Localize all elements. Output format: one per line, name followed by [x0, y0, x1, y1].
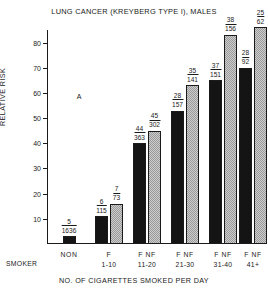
- fraction-denominator: 151: [210, 69, 221, 78]
- fraction-numerator: 7: [113, 185, 120, 193]
- x-axis-title: NO. OF CIGARETTES SMOKED PER DAY: [0, 276, 268, 285]
- bar-fraction-label: 6115: [96, 198, 107, 215]
- bar-fraction-label: 2562: [257, 9, 264, 26]
- y-tick-label: 60: [33, 89, 41, 96]
- bar-f: [171, 111, 184, 244]
- y-tick-label: 70: [33, 64, 41, 71]
- category-series-label: F NF: [138, 250, 156, 260]
- y-tick-label: 10: [33, 215, 41, 222]
- category-series-label: F NF: [176, 250, 195, 260]
- category-series-label: F NF: [244, 250, 262, 260]
- y-tick-mark: [43, 118, 48, 119]
- category-series-label: F NF: [214, 250, 233, 260]
- fraction-denominator: 302: [149, 120, 160, 129]
- bar-fraction-label: 773: [113, 185, 120, 202]
- y-tick-mark: [43, 143, 48, 144]
- fraction-numerator: 28: [172, 92, 183, 100]
- bar-fraction-label: 37151: [210, 62, 221, 79]
- bar-nf: [148, 131, 161, 244]
- x-category-label: F NF21-30: [176, 250, 195, 269]
- bar-nf: [224, 35, 237, 244]
- fraction-denominator: 92: [242, 57, 249, 66]
- y-tick-mark: [43, 68, 48, 69]
- bar-f: [239, 68, 252, 244]
- fraction-denominator: 115: [96, 205, 107, 214]
- bar-f: [209, 80, 222, 244]
- bar-fraction-label: 35141: [187, 67, 198, 84]
- y-tick-label: 40: [33, 140, 41, 147]
- bar-fraction-label: 28157: [172, 92, 183, 109]
- x-category-label: F1-10: [102, 250, 117, 269]
- category-range-label: 21-30: [176, 260, 195, 270]
- category-range-label: 41+: [244, 260, 262, 270]
- fraction-numerator: 37: [210, 62, 221, 70]
- bar-fraction-label: 44363: [134, 125, 145, 142]
- bar-f: [95, 216, 108, 244]
- bar-nf: [254, 27, 267, 244]
- fraction-numerator: 35: [187, 67, 198, 75]
- fraction-denominator: 157: [172, 99, 183, 108]
- category-series-label: F: [102, 250, 117, 260]
- y-tick-mark: [43, 219, 48, 220]
- lung-cancer-bar-chart: LUNG CANCER (KREYBERG TYPE I), MALES 102…: [0, 0, 268, 294]
- fraction-denominator: 363: [134, 132, 145, 141]
- category-series-label: NON: [61, 250, 78, 260]
- plot-area: 1020304050607080 51636611577344363453022…: [47, 30, 260, 244]
- category-range-label: 1-10: [102, 260, 117, 270]
- category-range-label: 11-20: [138, 260, 156, 270]
- y-tick-label: 80: [33, 39, 41, 46]
- bar-nf: [110, 204, 123, 244]
- y-tick-mark: [43, 43, 48, 44]
- fraction-denominator: 141: [187, 74, 198, 83]
- fraction-numerator: 44: [134, 125, 145, 133]
- fraction-denominator: 73: [113, 193, 120, 202]
- x-category-label: F NF11-20: [138, 250, 156, 269]
- annotation-a: A: [77, 93, 82, 100]
- y-axis-line: [47, 30, 48, 244]
- fraction-numerator: 45: [149, 112, 160, 120]
- fraction-denominator: 1636: [62, 225, 77, 234]
- bar-fraction-label: 38156: [225, 16, 236, 33]
- y-tick-label: 50: [33, 115, 41, 122]
- y-axis-title: RELATIVE RISK: [0, 68, 7, 126]
- fraction-numerator: 6: [96, 198, 107, 206]
- bar-fraction-label: 51636: [62, 218, 77, 235]
- y-tick-mark: [43, 194, 48, 195]
- fraction-denominator: 156: [225, 24, 236, 33]
- bar-f: [133, 143, 146, 244]
- y-tick-mark: [43, 93, 48, 94]
- fraction-numerator: 28: [242, 49, 249, 57]
- category-range-label: 31-40: [214, 260, 233, 270]
- bar-fraction-label: 2892: [242, 49, 249, 66]
- y-tick-mark: [43, 168, 48, 169]
- fraction-numerator: 5: [62, 218, 77, 226]
- x-category-label: NON: [61, 250, 78, 260]
- smoker-word-label: SMOKER: [6, 260, 37, 267]
- fraction-denominator: 62: [257, 16, 264, 25]
- chart-title: LUNG CANCER (KREYBERG TYPE I), MALES: [0, 7, 268, 16]
- fraction-numerator: 38: [225, 16, 236, 24]
- fraction-numerator: 25: [257, 9, 264, 17]
- bar-non: [63, 236, 76, 244]
- bar-fraction-label: 45302: [149, 112, 160, 129]
- y-tick-label: 30: [33, 165, 41, 172]
- x-category-label: F NF31-40: [214, 250, 233, 269]
- bar-nf: [186, 85, 199, 244]
- x-category-label: F NF41+: [244, 250, 262, 269]
- y-tick-label: 20: [33, 190, 41, 197]
